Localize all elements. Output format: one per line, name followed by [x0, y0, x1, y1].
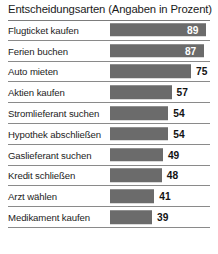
bar: [110, 86, 172, 100]
category-label: Gaslieferant suchen: [8, 149, 91, 160]
chart-rows: Flugticket kaufen89Ferien buchen87Auto m…: [0, 20, 218, 228]
bar-track: 41: [110, 186, 210, 206]
bar-track: 57: [110, 82, 210, 102]
category-label: Stromlieferant suchen: [8, 108, 99, 119]
chart-row: Stromlieferant suchen54: [8, 103, 210, 124]
chart-row: Kredit schließen48: [8, 166, 210, 187]
category-label: Aktien kaufen: [8, 87, 65, 98]
category-label: Medikament kaufen: [8, 212, 90, 223]
bar: [110, 65, 191, 79]
bar: [110, 190, 154, 204]
category-label: Flugticket kaufen: [8, 24, 79, 35]
category-label: Hypothek abschließen: [8, 128, 101, 139]
bar-track: 89: [110, 20, 210, 40]
bar-value-label: 57: [177, 87, 188, 98]
chart-row: Ferien buchen87: [8, 41, 210, 62]
chart-row: Hypothek abschließen54: [8, 124, 210, 145]
bar-value-label: 54: [173, 108, 184, 119]
bar-value-label: 48: [167, 170, 178, 181]
chart-row: Aktien kaufen57: [8, 82, 210, 103]
bar-track: 39: [110, 207, 210, 227]
bar-value-label: 39: [157, 212, 168, 223]
bar: [110, 106, 168, 120]
chart-row: Auto mieten75: [8, 62, 210, 83]
bar-track: 54: [110, 124, 210, 144]
category-label: Kredit schließen: [8, 170, 75, 181]
bar: [110, 210, 152, 224]
chart-row: Arzt wählen41: [8, 186, 210, 207]
bar-chart: Entscheidungsarten (Angaben in Prozent) …: [0, 0, 218, 254]
bar-value-label: 87: [185, 45, 196, 56]
chart-row: Gaslieferant suchen49: [8, 145, 210, 166]
bar-value-label: 49: [168, 149, 179, 160]
bar-track: 48: [110, 166, 210, 186]
bar-value-label: 54: [173, 128, 184, 139]
bar: [110, 148, 163, 162]
chart-row: Medikament kaufen39: [8, 207, 210, 228]
bar-value-label: 75: [196, 66, 207, 77]
bar-track: 49: [110, 145, 210, 165]
chart-row: Flugticket kaufen89: [8, 20, 210, 41]
bar-track: 54: [110, 103, 210, 123]
bar: [110, 169, 162, 183]
category-label: Ferien buchen: [8, 45, 68, 56]
bar-track: 87: [110, 41, 210, 61]
bar-track: 75: [110, 62, 210, 82]
bar-value-label: 89: [187, 24, 198, 35]
chart-title: Entscheidungsarten (Angaben in Prozent): [8, 3, 212, 15]
category-label: Auto mieten: [8, 66, 58, 77]
category-label: Arzt wählen: [8, 191, 57, 202]
bar-value-label: 41: [159, 191, 170, 202]
bar: [110, 127, 168, 141]
